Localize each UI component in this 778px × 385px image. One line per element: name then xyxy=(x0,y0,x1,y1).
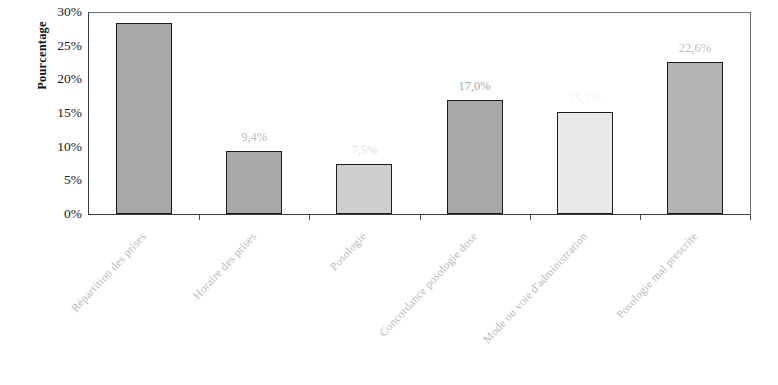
bar xyxy=(667,62,723,214)
bar-slot: 22,6% xyxy=(667,12,723,214)
x-category-label: Mode ou voie d'administration xyxy=(376,230,589,385)
bar-value-label: 22,6% xyxy=(643,41,747,56)
bar xyxy=(336,164,392,215)
x-category-label: Répartition des prises xyxy=(0,230,148,385)
x-axis-tick xyxy=(309,215,310,220)
x-axis-tick xyxy=(750,215,751,220)
y-tick-label: 15% xyxy=(30,105,82,121)
bar-value-label: 7,5% xyxy=(312,143,416,158)
bar xyxy=(447,100,503,214)
x-axis-tick xyxy=(530,215,531,220)
x-axis-tick xyxy=(420,215,421,220)
x-axis-tick xyxy=(199,215,200,220)
x-axis-tick xyxy=(640,215,641,220)
x-category-label: Posologie xyxy=(155,230,368,385)
bar-value-label: 17,0% xyxy=(423,79,527,94)
x-category-label: Posologie mal prescrite xyxy=(486,230,699,385)
y-axis-tick-labels: 30% 25% 20% 15% 10% 5% 0% xyxy=(30,0,82,225)
bar-chart: Pourcentage 30% 25% 20% 15% 10% 5% 0% 9,… xyxy=(0,0,778,385)
x-category-label: Horaire des prises xyxy=(45,230,258,385)
y-tick-label: 25% xyxy=(30,38,82,54)
y-tick-label: 10% xyxy=(30,139,82,155)
bar xyxy=(557,112,613,214)
bar-slot: 7,5% xyxy=(336,12,392,214)
bar-slot: 15,1% xyxy=(557,12,613,214)
y-tick-label: 20% xyxy=(30,71,82,87)
y-tick-label: 5% xyxy=(30,172,82,188)
bar xyxy=(116,23,172,214)
y-tick-label: 0% xyxy=(30,206,82,222)
bar-value-label: 15,1% xyxy=(533,91,637,106)
bars-layer: 9,4% 7,5% 17,0% 15,1% 22,6% xyxy=(89,12,750,214)
bar xyxy=(226,151,282,214)
bar-slot xyxy=(116,12,172,214)
x-category-label: Concordance posologie dose xyxy=(266,230,479,385)
bar-slot: 9,4% xyxy=(226,12,282,214)
bar-slot: 17,0% xyxy=(447,12,503,214)
bar-value-label: 9,4% xyxy=(202,130,306,145)
y-tick-label: 30% xyxy=(30,4,82,20)
